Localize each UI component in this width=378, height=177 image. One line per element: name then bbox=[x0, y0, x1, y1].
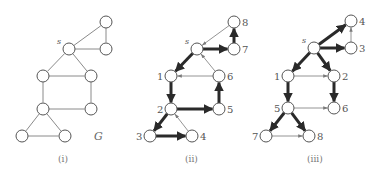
edge-s-4 bbox=[319, 25, 346, 45]
node-3 bbox=[345, 42, 357, 54]
node-d bbox=[85, 70, 97, 82]
panel-undirected-graph-G: s bbox=[16, 16, 112, 142]
node-5 bbox=[213, 103, 225, 115]
graph-diagram: s 8s7162534 4s3125678 G (i) (ii) (iii) bbox=[0, 0, 378, 177]
node-2 bbox=[328, 70, 340, 82]
node-3 bbox=[144, 130, 156, 142]
node-label: 7 bbox=[252, 131, 258, 142]
node-label: 1 bbox=[274, 71, 280, 82]
node-label: 3 bbox=[136, 131, 142, 142]
node-b bbox=[100, 43, 112, 55]
node-6 bbox=[328, 102, 340, 114]
node-label: 5 bbox=[274, 103, 280, 114]
node-e bbox=[37, 103, 49, 115]
edge-6-s bbox=[201, 54, 215, 71]
node-7 bbox=[228, 43, 240, 55]
panel-bfs-tree: 4s3125678 bbox=[252, 15, 365, 142]
node-5 bbox=[282, 102, 294, 114]
edge-2-3 bbox=[154, 114, 167, 131]
edge-s-c bbox=[48, 53, 65, 71]
node-label: 7 bbox=[242, 44, 248, 55]
node-c bbox=[37, 70, 49, 82]
node-8 bbox=[228, 16, 240, 28]
node-label: 2 bbox=[342, 71, 348, 82]
node-f bbox=[85, 103, 97, 115]
edge-8-s bbox=[202, 26, 229, 46]
edge-s-1 bbox=[176, 53, 193, 71]
node-label: s bbox=[302, 36, 306, 45]
node-1 bbox=[282, 70, 294, 82]
caption-panel-i: (i) bbox=[58, 154, 68, 164]
node-label: 8 bbox=[242, 17, 248, 28]
caption-panel-ii: (ii) bbox=[185, 154, 198, 164]
node-s bbox=[191, 43, 203, 55]
panel-dfs-tree: 8s7162534 bbox=[136, 16, 248, 142]
node-label: 5 bbox=[227, 104, 233, 115]
node-h bbox=[59, 130, 71, 142]
node-g bbox=[16, 130, 28, 142]
node-1 bbox=[165, 70, 177, 82]
node-4 bbox=[186, 130, 198, 142]
edge-e-h bbox=[47, 114, 61, 131]
node-label: 6 bbox=[342, 103, 348, 114]
edge-e-g bbox=[26, 114, 39, 131]
node-s bbox=[308, 42, 320, 54]
node-label: 8 bbox=[317, 131, 323, 142]
edge-5-8 bbox=[292, 113, 306, 131]
node-label: 2 bbox=[157, 104, 163, 115]
edge-s-a bbox=[74, 26, 101, 46]
node-s bbox=[63, 43, 75, 55]
node-label: 1 bbox=[157, 71, 163, 82]
graph-name-label: G bbox=[94, 130, 103, 143]
edge-s-1 bbox=[292, 52, 309, 71]
node-a bbox=[100, 16, 112, 28]
edge-4-2 bbox=[175, 114, 188, 131]
node-label: s bbox=[185, 37, 189, 46]
edge-5-7 bbox=[270, 113, 284, 131]
node-6 bbox=[213, 70, 225, 82]
node-label: 3 bbox=[359, 43, 365, 54]
node-7 bbox=[260, 130, 272, 142]
node-4 bbox=[345, 15, 357, 27]
node-label: 6 bbox=[227, 71, 233, 82]
edge-s-2 bbox=[317, 53, 330, 71]
node-label: 4 bbox=[200, 131, 206, 142]
node-2 bbox=[165, 103, 177, 115]
node-label: 4 bbox=[359, 16, 365, 27]
node-8 bbox=[303, 130, 315, 142]
edge-s-d bbox=[73, 54, 87, 71]
node-label: s bbox=[57, 37, 61, 46]
caption-panel-iii: (iii) bbox=[307, 154, 323, 164]
